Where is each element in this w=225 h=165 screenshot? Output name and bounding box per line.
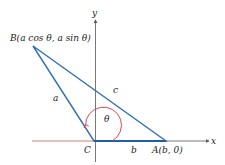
angle-theta-label: θ — [104, 114, 110, 124]
triangle-diagram: y x B(a cos θ, a sin θ) C A(b, 0) a b c … — [0, 0, 225, 165]
side-a-label: a — [53, 93, 58, 103]
point-C-label: C — [84, 145, 91, 155]
y-axis-label: y — [91, 8, 98, 18]
point-A-label: A(b, 0) — [151, 145, 183, 155]
side-b-label: b — [131, 145, 137, 155]
side-c-label: c — [113, 85, 118, 95]
point-B-label: B(a cos θ, a sin θ) — [9, 33, 91, 43]
x-axis-label: x — [211, 136, 216, 146]
